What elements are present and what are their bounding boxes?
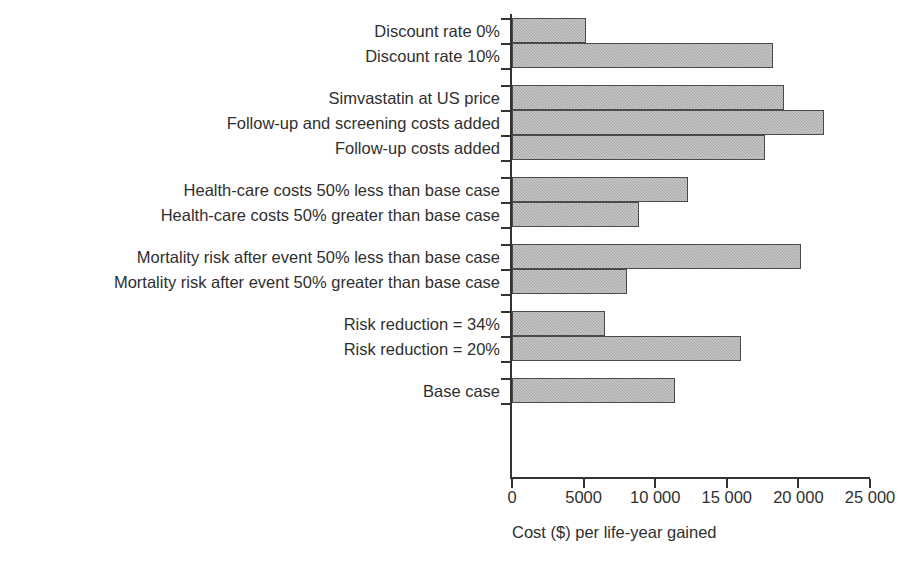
y-axis-tick bbox=[501, 160, 510, 162]
y-axis-tick bbox=[501, 110, 510, 112]
x-axis-tick-label: 5000 bbox=[565, 489, 602, 506]
x-axis-tick-label: 10 000 bbox=[630, 489, 680, 506]
bar bbox=[512, 269, 627, 294]
category-label: Health-care costs 50% greater than base … bbox=[0, 207, 504, 224]
y-axis-tick bbox=[501, 177, 510, 179]
x-axis-tick bbox=[511, 479, 513, 488]
category-label: Mortality risk after event 50% greater t… bbox=[0, 274, 504, 291]
x-axis-tick-label: 20 000 bbox=[773, 489, 823, 506]
y-axis-tick bbox=[501, 403, 510, 405]
y-axis-tick bbox=[501, 85, 510, 87]
bar bbox=[512, 43, 773, 68]
category-label: Base case bbox=[0, 383, 504, 400]
category-label: Mortality risk after event 50% less than… bbox=[0, 249, 504, 266]
bar bbox=[512, 18, 586, 43]
x-axis-line bbox=[510, 477, 870, 479]
y-axis-tick bbox=[501, 244, 510, 246]
x-axis-tick-label: 25 000 bbox=[845, 489, 895, 506]
y-axis-tick bbox=[501, 202, 510, 204]
bar bbox=[512, 202, 639, 227]
y-axis-tick bbox=[501, 135, 510, 137]
y-axis-tick bbox=[501, 227, 510, 229]
y-axis-tick bbox=[501, 336, 510, 338]
bar bbox=[512, 336, 741, 361]
category-label: Simvastatin at US price bbox=[0, 90, 504, 107]
y-axis-tick bbox=[501, 311, 510, 313]
bar bbox=[512, 311, 605, 336]
x-axis-tick bbox=[583, 479, 585, 488]
y-axis-tick bbox=[501, 361, 510, 363]
bar bbox=[512, 135, 765, 160]
x-axis-tick bbox=[869, 479, 871, 488]
category-label: Follow-up costs added bbox=[0, 140, 504, 157]
x-axis-tick-label: 0 bbox=[507, 489, 516, 506]
bar bbox=[512, 85, 784, 110]
y-axis-tick bbox=[501, 269, 510, 271]
category-label: Risk reduction = 34% bbox=[0, 316, 504, 333]
category-label: Discount rate 10% bbox=[0, 48, 504, 65]
bar bbox=[512, 177, 688, 202]
y-axis-tick bbox=[501, 68, 510, 70]
y-axis-tick bbox=[501, 43, 510, 45]
bar bbox=[512, 378, 675, 403]
x-axis-tick bbox=[797, 479, 799, 488]
category-label: Risk reduction = 20% bbox=[0, 341, 504, 358]
category-label: Follow-up and screening costs added bbox=[0, 115, 504, 132]
x-axis-tick bbox=[654, 479, 656, 488]
y-axis-tick bbox=[501, 18, 510, 20]
y-axis-tick bbox=[501, 294, 510, 296]
x-axis-tick bbox=[726, 479, 728, 488]
bar bbox=[512, 110, 824, 135]
category-label: Discount rate 0% bbox=[0, 23, 504, 40]
tornado-chart: Discount rate 0%Discount rate 10%Simvast… bbox=[0, 0, 914, 566]
y-axis-tick bbox=[501, 378, 510, 380]
x-axis-title: Cost ($) per life-year gained bbox=[512, 524, 717, 541]
x-axis-tick-label: 15 000 bbox=[702, 489, 752, 506]
bar bbox=[512, 244, 801, 269]
category-label: Health-care costs 50% less than base cas… bbox=[0, 182, 504, 199]
